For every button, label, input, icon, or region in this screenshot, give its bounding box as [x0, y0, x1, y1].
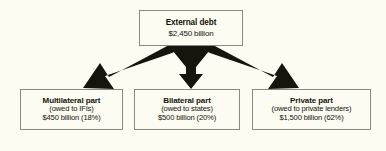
external-debt-diagram: External debt $2,450 billion Multilatera…	[0, 0, 386, 151]
node-multilateral-amount: $450 billion (18%)	[42, 114, 100, 123]
node-external-debt-title: External debt	[166, 18, 217, 28]
node-private-part: Private part (owed to private lenders) $…	[252, 89, 371, 130]
node-external-debt: External debt $2,450 billion	[139, 10, 243, 46]
arrow-to-bilateral-icon	[168, 45, 214, 89]
node-multilateral-part: Multilateral part (owed to IFIs) $450 bi…	[20, 89, 123, 130]
node-bilateral-part: Bilateral part (owed to states) $500 bil…	[134, 89, 240, 130]
arrow-to-multilateral-icon	[83, 45, 188, 89]
node-bilateral-amount: $500 billion (20%)	[158, 114, 216, 123]
arrow-to-private-icon	[194, 45, 299, 89]
node-private-amount: $1,500 billion (62%)	[279, 114, 343, 123]
node-external-debt-amount: $2,450 billion	[168, 28, 213, 38]
